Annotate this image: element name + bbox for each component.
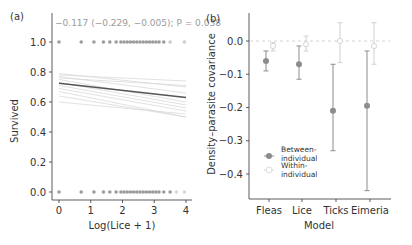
data-point xyxy=(168,40,172,44)
category-label-eimeria: Eimeria xyxy=(351,205,389,216)
data-point xyxy=(79,190,83,194)
legend: Between- individual Within- individual xyxy=(264,145,317,179)
category-label-fleas: Fleas xyxy=(256,205,282,216)
data-point xyxy=(175,190,179,194)
estimate-within-ticks xyxy=(337,23,342,63)
y-tick-label: −0.3 xyxy=(219,135,243,146)
estimate-between-lice xyxy=(296,46,302,79)
point-estimate xyxy=(303,42,308,47)
data-point xyxy=(57,190,61,194)
data-point xyxy=(154,40,158,44)
panel-b: (b) 0.0−0.1−0.2−0.3−0.4 FleasLiceTicksEi… xyxy=(206,13,391,231)
data-point xyxy=(154,190,158,194)
individual-line xyxy=(59,96,186,117)
data-point xyxy=(132,190,136,194)
point-estimate xyxy=(371,43,376,48)
data-point xyxy=(148,190,152,194)
data-point xyxy=(135,40,139,44)
panel-a-x-ticks: 01234 xyxy=(56,200,189,216)
data-point xyxy=(92,190,96,194)
y-tick-label: 1.0 xyxy=(30,37,46,48)
data-point xyxy=(79,40,83,44)
estimate-between-ticks xyxy=(330,64,336,150)
y-tick-label: 0.4 xyxy=(30,127,46,138)
y-tick-label: 0.0 xyxy=(227,36,243,47)
y-tick-label: −0.1 xyxy=(219,69,243,80)
y-tick-label: 0.8 xyxy=(30,67,46,78)
data-point xyxy=(125,40,129,44)
panel-b-x-ticks: FleasLiceTicksEimeria xyxy=(256,199,389,216)
data-point xyxy=(151,40,155,44)
point-estimate xyxy=(263,58,269,64)
panel-b-label: (b) xyxy=(206,13,220,24)
data-point xyxy=(145,40,149,44)
point-estimate xyxy=(337,38,342,43)
estimate-within-lice xyxy=(303,36,308,51)
panel-b-x-label: Model xyxy=(304,220,334,231)
data-point xyxy=(138,190,142,194)
estimate-within-eimeria xyxy=(371,23,376,65)
legend-between-icon xyxy=(266,153,272,159)
data-point xyxy=(138,40,142,44)
data-point xyxy=(108,190,112,194)
legend-between-label-1: Between- xyxy=(281,145,317,154)
panel-a-label: (a) xyxy=(10,11,24,22)
data-point xyxy=(122,40,126,44)
x-tick-label: 2 xyxy=(119,205,125,216)
panel-b-y-ticks: 0.0−0.1−0.2−0.3−0.4 xyxy=(219,36,249,180)
y-tick-label: −0.4 xyxy=(219,169,243,180)
estimate-between-eimeria xyxy=(364,51,370,191)
data-point xyxy=(141,190,145,194)
x-tick-label: 3 xyxy=(151,205,157,216)
point-estimate xyxy=(330,108,336,114)
data-point xyxy=(168,190,172,194)
y-tick-label: −0.2 xyxy=(219,102,243,113)
legend-within-label-1: Within- xyxy=(281,161,308,170)
data-point xyxy=(102,190,106,194)
data-point xyxy=(183,40,187,44)
estimate-within-fleas xyxy=(270,43,275,51)
figure: (a) −0.117 (−0.229, −0.005); P = 0.038 0… xyxy=(0,0,412,245)
data-point xyxy=(151,190,155,194)
category-label-ticks: Ticks xyxy=(322,205,348,216)
panel-b-y-label: Density–parasite covariance xyxy=(206,33,217,175)
data-point xyxy=(157,190,161,194)
y-tick-label: 0.2 xyxy=(30,157,46,168)
data-point xyxy=(162,190,166,194)
survival-points xyxy=(57,40,186,194)
panel-a-annotation: −0.117 (−0.229, −0.005); P = 0.038 xyxy=(55,18,221,28)
x-tick-label: 0 xyxy=(56,205,62,216)
data-point xyxy=(148,40,152,44)
data-point xyxy=(92,40,96,44)
point-estimate xyxy=(296,61,302,67)
y-tick-label: 0.0 xyxy=(30,187,46,198)
data-point xyxy=(132,40,136,44)
legend-within-icon xyxy=(266,167,272,173)
y-tick-label: 0.6 xyxy=(30,97,46,108)
data-point xyxy=(125,190,129,194)
data-point xyxy=(122,190,126,194)
data-point xyxy=(119,190,123,194)
category-label-lice: Lice xyxy=(292,205,312,216)
data-point xyxy=(141,40,145,44)
data-point xyxy=(114,190,118,194)
data-point xyxy=(57,40,61,44)
panel-a: (a) −0.117 (−0.229, −0.005); P = 0.038 0… xyxy=(9,11,221,231)
panel-a-y-label: Survived xyxy=(9,99,20,143)
legend-within-label-2: individual xyxy=(281,170,317,179)
data-point xyxy=(162,40,166,44)
estimate-between-fleas xyxy=(263,51,269,71)
x-tick-label: 4 xyxy=(183,205,189,216)
point-estimate xyxy=(270,43,275,48)
data-point xyxy=(119,40,123,44)
data-point xyxy=(183,190,187,194)
panel-a-x-label: Log(Lice + 1) xyxy=(89,220,156,231)
data-point xyxy=(108,40,112,44)
data-point xyxy=(102,40,106,44)
data-point xyxy=(129,190,133,194)
data-point xyxy=(135,190,139,194)
point-estimate xyxy=(364,103,370,109)
panel-a-y-ticks: 0.00.20.40.60.81.0 xyxy=(30,37,52,198)
data-point xyxy=(129,40,133,44)
data-point xyxy=(157,40,161,44)
